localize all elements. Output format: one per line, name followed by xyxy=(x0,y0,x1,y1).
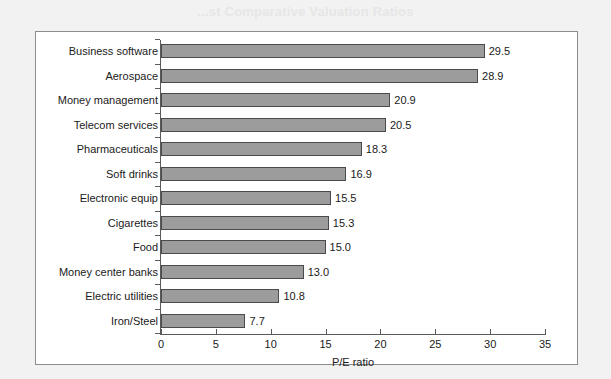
bar-category-label: Money center banks xyxy=(59,261,158,284)
y-axis-tick xyxy=(155,333,160,334)
bar-category-label: Telecom services xyxy=(74,114,158,137)
x-axis-tick-label: 0 xyxy=(158,338,164,350)
bar xyxy=(161,93,390,107)
bar xyxy=(161,118,386,132)
x-axis-tick xyxy=(545,329,546,335)
bar-value-label: 10.8 xyxy=(279,285,304,308)
bar-category-label: Electric utilities xyxy=(85,285,158,308)
bar-category-label: Iron/Steel xyxy=(111,310,158,333)
bar-value-label: 18.3 xyxy=(362,138,387,161)
x-axis-tick-label: 10 xyxy=(265,338,277,350)
x-axis-tick xyxy=(380,329,381,335)
bar-value-label: 13.0 xyxy=(304,261,329,284)
bar-category-label: Electronic equip xyxy=(80,187,158,210)
bar xyxy=(161,191,331,205)
bar-row: Money center banks13.0 xyxy=(36,261,579,284)
y-axis-tick xyxy=(155,186,160,187)
bar-category-label: Food xyxy=(133,236,158,259)
bar-row: Soft drinks16.9 xyxy=(36,163,579,186)
y-axis-tick xyxy=(155,235,160,236)
bar-row: Electronic equip15.5 xyxy=(36,187,579,210)
bar xyxy=(161,216,329,230)
x-axis-tick xyxy=(435,329,436,335)
bar xyxy=(161,289,279,303)
bar-row: Aerospace28.9 xyxy=(36,65,579,88)
bar-value-label: 15.3 xyxy=(329,212,354,235)
bar-row: Food15.0 xyxy=(36,236,579,259)
x-axis-tick-label: 25 xyxy=(429,338,441,350)
y-axis-tick xyxy=(155,284,160,285)
y-axis-tick xyxy=(155,211,160,212)
y-axis-tick xyxy=(155,309,160,310)
bar xyxy=(161,265,304,279)
bar xyxy=(161,240,326,254)
page-heading: ...st Comparative Valuation Ratios xyxy=(0,4,611,19)
y-axis-tick xyxy=(155,260,160,261)
bar-category-label: Pharmaceuticals xyxy=(77,138,158,161)
bar-row: Electric utilities10.8 xyxy=(36,285,579,308)
bar xyxy=(161,44,485,58)
bar-category-label: Business software xyxy=(69,40,158,63)
bar-row: Money management20.9 xyxy=(36,89,579,112)
x-axis-tick-label: 5 xyxy=(213,338,219,350)
bar-value-label: 15.0 xyxy=(326,236,351,259)
x-axis-line xyxy=(160,334,546,335)
y-axis-tick xyxy=(155,137,160,138)
bar xyxy=(161,142,362,156)
x-axis-tick xyxy=(161,329,162,335)
bar-category-label: Cigarettes xyxy=(108,212,158,235)
y-axis-tick xyxy=(155,39,160,40)
bar-chart-plot-area: Business software29.5Aerospace28.9Money … xyxy=(36,32,579,366)
bar xyxy=(161,167,346,181)
x-axis-title: P/E ratio xyxy=(160,356,546,368)
bar-value-label: 29.5 xyxy=(485,40,510,63)
bar-value-label: 20.5 xyxy=(386,114,411,137)
y-axis-tick xyxy=(155,88,160,89)
bar-row: Cigarettes15.3 xyxy=(36,212,579,235)
bar-row: Iron/Steel7.7 xyxy=(36,310,579,333)
y-axis-tick xyxy=(155,113,160,114)
bar-value-label: 16.9 xyxy=(346,163,371,186)
bar-category-label: Money management xyxy=(58,89,158,112)
bar xyxy=(161,69,478,83)
bar-value-label: 28.9 xyxy=(478,65,503,88)
x-axis-tick-label: 35 xyxy=(539,338,551,350)
bar-category-label: Aerospace xyxy=(105,65,158,88)
bar-row: Business software29.5 xyxy=(36,40,579,63)
y-axis-tick xyxy=(155,64,160,65)
bar xyxy=(161,314,245,328)
chart-figure: Business software29.5Aerospace28.9Money … xyxy=(35,31,578,365)
x-axis-tick xyxy=(216,329,217,335)
bar-value-label: 20.9 xyxy=(390,89,415,112)
bar-row: Telecom services20.5 xyxy=(36,114,579,137)
x-axis-tick-label: 15 xyxy=(319,338,331,350)
bar-value-label: 7.7 xyxy=(245,310,264,333)
x-axis-tick xyxy=(326,329,327,335)
x-axis-tick-label: 20 xyxy=(374,338,386,350)
bar-value-label: 15.5 xyxy=(331,187,356,210)
x-axis-tick xyxy=(490,329,491,335)
x-axis-tick xyxy=(271,329,272,335)
bar-category-label: Soft drinks xyxy=(106,163,158,186)
y-axis-tick xyxy=(155,162,160,163)
bar-row: Pharmaceuticals18.3 xyxy=(36,138,579,161)
x-axis-tick-label: 30 xyxy=(484,338,496,350)
